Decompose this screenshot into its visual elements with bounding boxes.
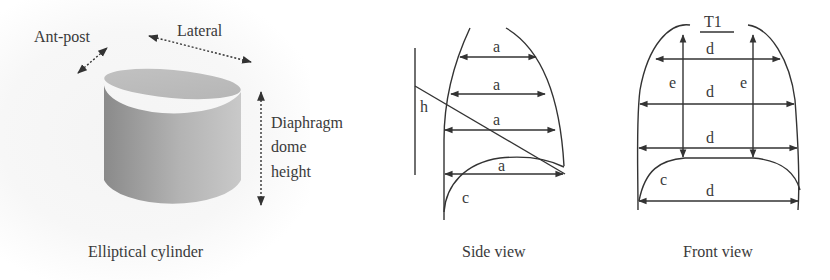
front-e-label-left: e [669, 74, 676, 91]
front-d-label-1: d [706, 40, 714, 57]
dome-label-line2: dome [271, 138, 307, 155]
side-view-labels: a a a a h c Side view [420, 38, 526, 260]
front-view-caption: Front view [683, 243, 753, 260]
front-e-label-right: e [740, 74, 747, 91]
side-a-label-4: a [498, 157, 505, 174]
side-a-label-3: a [493, 111, 500, 128]
front-d-label-2: d [706, 83, 714, 100]
front-d-label-4: d [706, 182, 714, 199]
front-right-outline [748, 25, 799, 210]
front-c-label: c [660, 171, 667, 188]
lateral-label: Lateral [177, 22, 223, 39]
side-c-label: c [462, 189, 469, 206]
cylinder-caption: Elliptical cylinder [88, 243, 204, 261]
side-view-panel [415, 28, 565, 220]
elliptical-cylinder-shape [103, 64, 242, 204]
dome-label-line3: height [271, 163, 312, 181]
front-d-label-3: d [706, 129, 714, 146]
side-h-label: h [420, 98, 428, 115]
lateral-arrow [149, 36, 251, 62]
ant-post-label: Ant-post [34, 28, 91, 46]
side-view-caption: Side view [462, 243, 526, 260]
dome-label-line1: Diaphragm [271, 114, 344, 132]
ant-post-arrow [78, 48, 107, 73]
side-a-label-1: a [493, 38, 500, 55]
front-view-labels: T1 d d d d e e c Front view [660, 13, 753, 260]
t1-label: T1 [704, 13, 722, 30]
cylinder-panel: Ant-post Lateral Diaphragm dome height E… [34, 22, 344, 261]
side-a-label-2: a [493, 76, 500, 93]
